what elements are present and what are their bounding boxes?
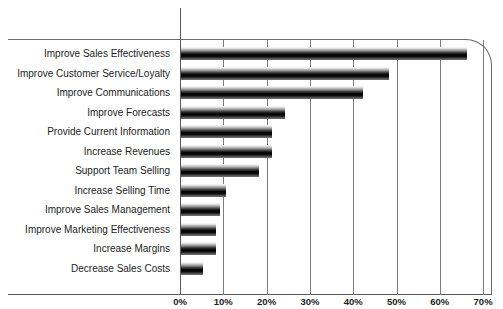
x-tick-label: 30% (300, 296, 319, 307)
bar-row (181, 44, 501, 64)
bar-row (181, 239, 501, 259)
bar-row (181, 103, 501, 123)
bar (181, 125, 272, 138)
bar (181, 86, 363, 99)
bar-row (181, 122, 501, 142)
x-tick-label: 60% (430, 296, 449, 307)
chart-title-clipped (0, 0, 300, 5)
category-label: Improve Forecasts (0, 103, 175, 123)
bar (181, 47, 467, 60)
bar (181, 203, 220, 216)
category-label: Increase Selling Time (0, 181, 175, 201)
bar (181, 106, 285, 119)
category-labels: Improve Sales EffectivenessImprove Custo… (0, 44, 175, 278)
x-tick-label: 10% (214, 296, 233, 307)
bar (181, 145, 272, 158)
category-label: Improve Communications (0, 83, 175, 103)
category-label: Provide Current Information (0, 122, 175, 142)
category-label: Decrease Sales Costs (0, 259, 175, 279)
bar-row (181, 259, 501, 279)
x-tick-label: 70% (474, 296, 493, 307)
bar-row (181, 142, 501, 162)
bar-chart: Improve Sales EffectivenessImprove Custo… (0, 0, 503, 309)
category-label: Improve Marketing Effectiveness (0, 220, 175, 240)
x-tick-label: 50% (387, 296, 406, 307)
bar-row (181, 64, 501, 84)
bar (181, 164, 259, 177)
bar-row (181, 161, 501, 181)
category-label: Improve Customer Service/Loyalty (0, 64, 175, 84)
x-tick-label: 20% (257, 296, 276, 307)
bar-row (181, 181, 501, 201)
category-label: Support Team Selling (0, 161, 175, 181)
category-label: Increase Revenues (0, 142, 175, 162)
category-label: Improve Sales Effectiveness (0, 44, 175, 64)
bar-row (181, 200, 501, 220)
bar (181, 262, 203, 275)
x-tick-labels: 0%10%20%30%40%50%60%70% (0, 296, 503, 309)
bar (181, 242, 216, 255)
bar (181, 223, 216, 236)
bar-row (181, 83, 501, 103)
bar (181, 67, 389, 80)
category-label: Improve Sales Management (0, 200, 175, 220)
bars-group (181, 44, 501, 278)
category-label: Increase Margins (0, 239, 175, 259)
bar (181, 184, 226, 197)
x-tick-label: 0% (173, 296, 187, 307)
bar-row (181, 220, 501, 240)
x-tick-label: 40% (344, 296, 363, 307)
